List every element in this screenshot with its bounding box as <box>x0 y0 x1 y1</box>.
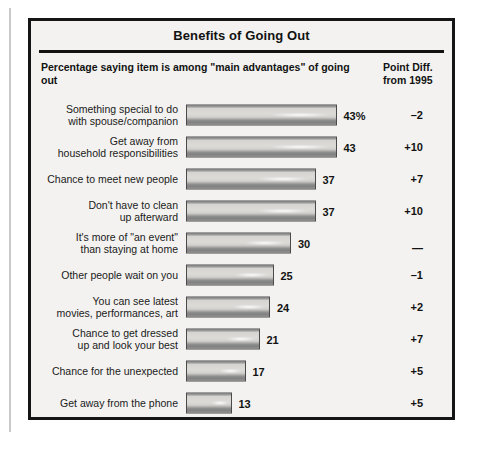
bar-value-label: 24 <box>277 301 289 313</box>
bar <box>186 393 232 414</box>
bar <box>186 361 246 382</box>
row-label-line1: Get away from the phone <box>0 397 178 409</box>
row-label: Get away from the phone <box>0 397 178 409</box>
bar-and-value: 17 <box>186 361 265 382</box>
bar <box>186 265 274 286</box>
bar <box>186 169 316 190</box>
row-label-line2: than staying at home <box>0 243 178 255</box>
table-row: Get away fromhousehold responsibilities4… <box>31 131 452 163</box>
bar <box>186 137 337 158</box>
bar-value-label: 17 <box>253 365 265 377</box>
point-diff-value: +7 <box>361 173 423 185</box>
bar-value-label: 21 <box>267 333 279 345</box>
row-label-line2: up afterward <box>0 211 178 223</box>
bar-value-label: 43 <box>344 141 356 153</box>
table-row: You can see latestmovies, performances, … <box>31 291 452 323</box>
point-diff-column-header: Point Diff. from 1995 <box>383 61 433 86</box>
page-title: Benefits of Going Out <box>173 28 309 43</box>
row-label: Get away fromhousehold responsibilities <box>0 135 178 159</box>
table-row: Something special to dowith spouse/compa… <box>31 99 452 131</box>
row-label-line1: Chance to meet new people <box>0 173 178 185</box>
row-label-line2: movies, performances, art <box>0 307 178 319</box>
row-label-line1: Get away from <box>0 135 178 147</box>
bar-and-value: 37 <box>186 201 335 222</box>
bar-rows: Something special to dowith spouse/compa… <box>31 99 452 419</box>
subheader-text: Percentage saying item is among "main ad… <box>41 61 361 86</box>
point-diff-value: +5 <box>361 397 423 409</box>
row-label-line1: You can see latest <box>0 295 178 307</box>
point-diff-value: +2 <box>361 301 423 313</box>
bar-and-value: 13 <box>186 393 251 414</box>
bar-and-value: 30 <box>186 233 310 254</box>
table-row: Chance to get dressedup and look your be… <box>31 323 452 355</box>
row-label: Don't have to cleanup afterward <box>0 199 178 223</box>
bar-and-value: 43% <box>186 105 366 126</box>
bar <box>186 297 270 318</box>
row-label-line1: It's more of "an event" <box>0 231 178 243</box>
row-label-line2: with spouse/companion <box>0 115 178 127</box>
chart-title-bar: Benefits of Going Out <box>31 21 452 49</box>
table-row: It's more of "an event"than staying at h… <box>31 227 452 259</box>
point-diff-header-line1: Point Diff. <box>383 61 433 74</box>
table-row: Chance to meet new people37+7 <box>31 163 452 195</box>
chart-frame: Benefits of Going Out Percentage saying … <box>28 18 455 420</box>
row-label-line1: Chance for the unexpected <box>0 365 178 377</box>
chart-subheader: Percentage saying item is among "main ad… <box>31 53 452 97</box>
bar-and-value: 24 <box>186 297 289 318</box>
point-diff-value: +10 <box>361 141 423 153</box>
bar-and-value: 25 <box>186 265 293 286</box>
row-label-line1: Something special to do <box>0 103 178 115</box>
bar-value-label: 13 <box>239 397 251 409</box>
bar-value-label: 37 <box>323 205 335 217</box>
row-label-line2: household responsibilities <box>0 147 178 159</box>
point-diff-value: +7 <box>361 333 423 345</box>
row-label: Chance to meet new people <box>0 173 178 185</box>
bar-value-label: 37 <box>323 173 335 185</box>
bar <box>186 329 260 350</box>
point-diff-header-line2: from 1995 <box>383 74 433 87</box>
point-diff-value: +5 <box>361 365 423 377</box>
bar-value-label: 25 <box>281 269 293 281</box>
point-diff-value: –2 <box>361 109 423 121</box>
row-label-line1: Other people wait on you <box>0 269 178 281</box>
bar <box>186 105 337 126</box>
row-label: You can see latestmovies, performances, … <box>0 295 178 319</box>
row-label: Other people wait on you <box>0 269 178 281</box>
row-label: Chance to get dressedup and look your be… <box>0 327 178 351</box>
row-label-line2: up and look your best <box>0 339 178 351</box>
row-label: Chance for the unexpected <box>0 365 178 377</box>
table-row: Other people wait on you25–1 <box>31 259 452 291</box>
bar-and-value: 21 <box>186 329 279 350</box>
bar-and-value: 37 <box>186 169 335 190</box>
bar-and-value: 43 <box>186 137 356 158</box>
point-diff-value: +10 <box>361 205 423 217</box>
table-row: Chance for the unexpected17+5 <box>31 355 452 387</box>
bar <box>186 233 291 254</box>
table-row: Get away from the phone13+5 <box>31 387 452 419</box>
bar-value-label: 30 <box>298 237 310 249</box>
row-label-line1: Don't have to clean <box>0 199 178 211</box>
bar <box>186 201 316 222</box>
point-diff-value: — <box>361 242 423 254</box>
row-label: Something special to dowith spouse/compa… <box>0 103 178 127</box>
row-label-line1: Chance to get dressed <box>0 327 178 339</box>
table-row: Don't have to cleanup afterward37+10 <box>31 195 452 227</box>
point-diff-value: –1 <box>361 269 423 281</box>
row-label: It's more of "an event"than staying at h… <box>0 231 178 255</box>
